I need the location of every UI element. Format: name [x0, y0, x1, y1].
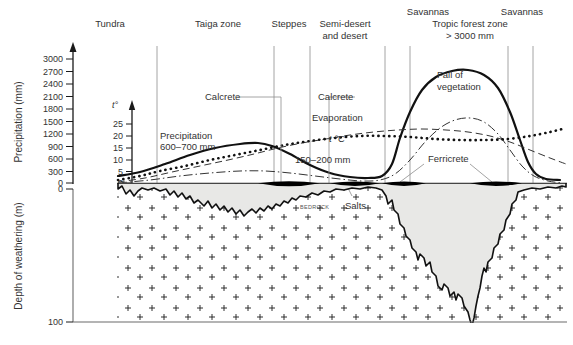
annotation-evaporation: Evaporation — [312, 112, 363, 123]
zone-label-tropic-line2: > 3000 mm — [446, 30, 494, 41]
precip-tick-300: 300 — [48, 167, 63, 177]
zone-label-savannas-left: Savannas — [407, 6, 450, 17]
precip-tick-1500: 1500 — [43, 117, 63, 127]
precip-tick-2400: 2400 — [43, 79, 63, 89]
leader-ferricrete-1 — [400, 164, 424, 182]
temp-tick-25: 25 — [113, 119, 123, 129]
leader-ferricrete-2 — [470, 164, 492, 182]
zone-label-tundra: Tundra — [95, 18, 125, 29]
zone-label-semidesert: Semi-desert — [319, 18, 371, 29]
annotation-ferricrete: Ferricrete — [428, 153, 469, 164]
temperature-axis-label: t° — [112, 100, 119, 110]
weathering-panel — [117, 183, 567, 326]
axis-arrow-temperature — [129, 100, 135, 110]
precip-tick-1200: 1200 — [43, 129, 63, 139]
axis-arrow-precipitation — [70, 42, 77, 52]
temp-tick-15: 15 — [113, 143, 123, 153]
depth-tick-100: 100 — [48, 317, 63, 327]
annotation-calcrete-right: Calcrete — [318, 91, 353, 102]
zone-label-tropic: Tropic forest zone — [432, 18, 508, 29]
annotation-precipitation-line2: 600–700 mm — [160, 141, 216, 152]
zone-label-steppes: Steppes — [272, 18, 307, 29]
annotation-calcrete-left: Calcrete — [205, 91, 240, 102]
climate-curves — [118, 70, 566, 183]
annotation-temperature-curve: t °C — [329, 133, 345, 144]
temp-tick-20: 20 — [113, 131, 123, 141]
temp-tick-10: 10 — [113, 155, 123, 165]
annotation-precip-arid: 150–200 mm — [295, 154, 351, 165]
precip-tick-600: 600 — [48, 154, 63, 164]
annotation-fall-of-vegetation-line2: vegetation — [437, 81, 481, 92]
depth-tick-0: 0 — [58, 184, 63, 194]
precip-tick-900: 900 — [48, 142, 63, 152]
zone-label-taiga: Taiga zone — [195, 18, 241, 29]
precipitation-axis-label: Precipitation (mm) — [13, 81, 24, 162]
precip-tick-2100: 2100 — [43, 92, 63, 102]
zone-label-semidesert-line2: and desert — [323, 30, 368, 41]
weathering-climate-diagram: Tundra Taiga zone Steppes Semi-desert an… — [0, 0, 573, 345]
precipitation-axis: 3000 2700 2400 2100 1800 1500 1200 900 6… — [13, 42, 77, 188]
annotation-precipitation-line1: Precipitation — [160, 130, 212, 141]
zone-labels: Tundra Taiga zone Steppes Semi-desert an… — [95, 6, 543, 41]
precip-tick-2700: 2700 — [43, 67, 63, 77]
zone-label-savannas-right: Savannas — [501, 6, 544, 17]
precip-tick-3000: 3000 — [43, 54, 63, 64]
annotation-fall-of-vegetation-line1: Fall of — [437, 69, 463, 80]
precip-tick-1800: 1800 — [43, 104, 63, 114]
figure-root: Tundra Taiga zone Steppes Semi-desert an… — [0, 0, 573, 345]
depth-axis-label: Depth of weathering (m) — [13, 202, 24, 309]
